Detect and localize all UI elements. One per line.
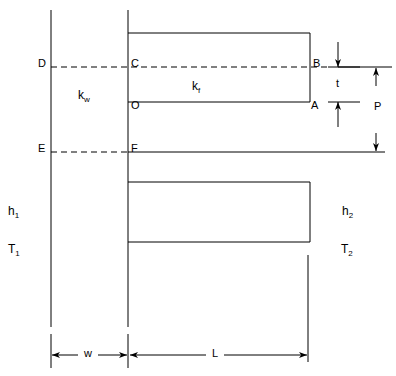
diagram-canvas	[0, 0, 396, 376]
point-label-D: D	[38, 58, 46, 69]
point-label-E: E	[38, 143, 45, 154]
point-label-O: O	[131, 100, 140, 111]
dimension-label-t: t	[336, 78, 339, 89]
point-label-F: F	[131, 143, 138, 154]
point-label-B: B	[313, 58, 320, 69]
film-label-h1: h1	[8, 205, 19, 217]
k-wall-subscript: w	[84, 95, 90, 104]
temperature-label-T2: T2	[341, 243, 353, 255]
conductivity-label-k-wall: kw	[78, 89, 90, 101]
point-label-C: C	[131, 58, 139, 69]
dimension-label-P: P	[374, 101, 381, 112]
T1-subscript: 1	[15, 249, 19, 258]
k-fin-subscript: f	[198, 86, 200, 95]
h1-subscript: 1	[15, 211, 19, 220]
conductivity-label-k-fin: kf	[192, 80, 200, 92]
h2-base: h	[342, 204, 349, 218]
h2-subscript: 2	[349, 211, 353, 220]
fin-wall-diagram: D C B O A E F kw kf h1 T1 h2 T2 t P w L	[0, 0, 396, 376]
point-label-A: A	[311, 100, 318, 111]
h1-base: h	[8, 204, 15, 218]
dimension-label-L: L	[212, 348, 218, 359]
dimension-label-w: w	[84, 348, 92, 359]
temperature-label-T1: T1	[8, 243, 20, 255]
film-label-h2: h2	[342, 205, 353, 217]
T2-subscript: 2	[348, 249, 352, 258]
